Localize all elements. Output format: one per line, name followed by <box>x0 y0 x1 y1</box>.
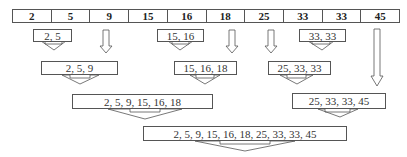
merge-box: 25, 33, 33 <box>268 61 331 75</box>
merge-arrow-icon <box>280 75 313 84</box>
down-arrow-icon <box>265 30 277 53</box>
final-sorted-box: 2, 5, 9, 15, 16, 18, 25, 33, 33, 45 <box>143 126 347 141</box>
merge-box: 2, 5, 9 <box>41 61 118 75</box>
merge-box: 2, 5, 9, 15, 16, 18 <box>72 94 213 109</box>
merge-arrow-icon <box>318 109 358 117</box>
merge-arrow-icon <box>308 41 334 50</box>
merge-arrow-icon <box>190 75 220 84</box>
merge-arrow-icon <box>41 41 66 50</box>
merge-arrow-icon <box>108 109 182 119</box>
merge-arrow-icon <box>195 141 295 151</box>
merge-arrow-icon <box>62 75 99 84</box>
merge-arrow-icon <box>168 41 193 50</box>
down-arrow-icon <box>371 29 383 86</box>
merge-box: 2, 5 <box>33 29 72 42</box>
merge-box: 25, 33, 33, 45 <box>292 93 386 109</box>
down-arrow-icon <box>226 30 238 53</box>
down-arrow-icon <box>100 30 112 53</box>
merge-box: 15, 16, 18 <box>174 61 237 75</box>
merge-box: 33, 33 <box>299 29 346 42</box>
merge-box: 15, 16 <box>157 29 204 42</box>
